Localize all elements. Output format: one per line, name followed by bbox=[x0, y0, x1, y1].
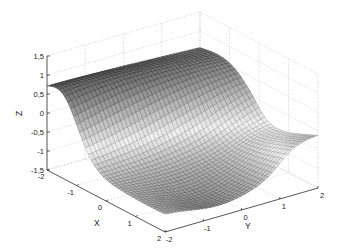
svg-text:-0,5: -0,5 bbox=[31, 128, 44, 137]
svg-text:1: 1 bbox=[40, 71, 44, 80]
svg-text:0: 0 bbox=[98, 203, 102, 212]
svg-text:-1: -1 bbox=[204, 224, 211, 233]
svg-text:-1: -1 bbox=[37, 147, 44, 156]
svg-text:0,5: 0,5 bbox=[34, 90, 44, 99]
svg-text:-2: -2 bbox=[166, 235, 173, 244]
svg-text:1,5: 1,5 bbox=[34, 52, 44, 61]
svg-text:2: 2 bbox=[320, 191, 324, 200]
surface-mesh bbox=[47, 48, 318, 215]
y-axis-label: Y bbox=[245, 221, 251, 231]
surface-plot: -1,5-1-0,500,511,5-2-1012-2-1012 Z X Y bbox=[0, 0, 339, 249]
svg-text:1: 1 bbox=[127, 219, 131, 228]
z-axis-label: Z bbox=[14, 111, 24, 116]
svg-text:-1: -1 bbox=[67, 188, 74, 197]
svg-text:1: 1 bbox=[282, 202, 286, 211]
svg-text:-2: -2 bbox=[38, 172, 45, 181]
svg-text:0: 0 bbox=[40, 109, 44, 118]
svg-text:2: 2 bbox=[157, 234, 161, 243]
x-axis-label: X bbox=[94, 218, 100, 228]
